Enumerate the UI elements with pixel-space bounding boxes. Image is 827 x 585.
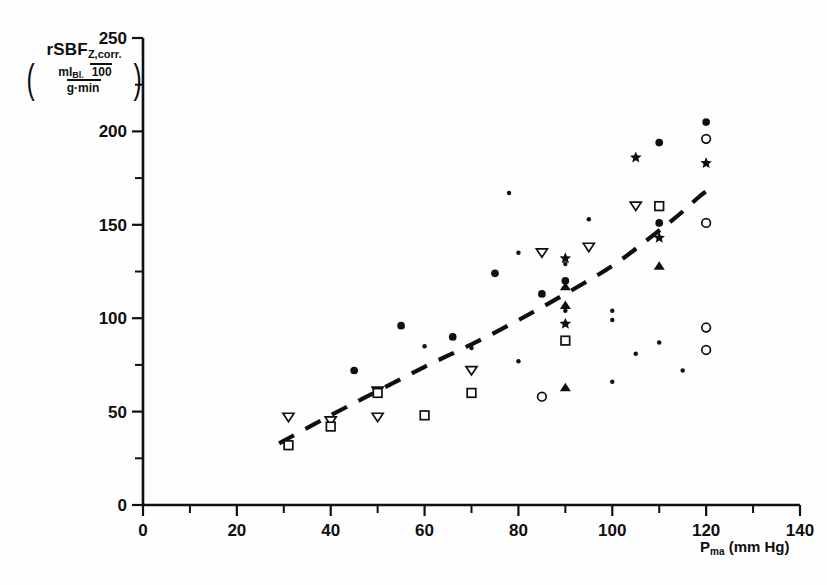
- x-tick-label: 80: [509, 521, 528, 540]
- x-tick-label: 140: [786, 521, 814, 540]
- data-point-open-square[interactable]: [561, 336, 570, 345]
- x-tick-label: 60: [415, 521, 434, 540]
- data-point-filled-circle[interactable]: [610, 308, 614, 312]
- data-point-filled-triangle-up[interactable]: [560, 383, 571, 391]
- data-point-filled-triangle-up[interactable]: [654, 261, 665, 269]
- scatter-plot-canvas: 050100150200250 020406080100120140: [0, 0, 827, 585]
- y-tick-label: 50: [108, 403, 127, 422]
- data-point-open-circle[interactable]: [702, 346, 711, 355]
- data-point-filled-circle[interactable]: [469, 346, 473, 350]
- data-point-open-triangle-down[interactable]: [583, 243, 594, 251]
- y-tick-label: 150: [99, 216, 127, 235]
- data-point-filled-circle[interactable]: [449, 333, 457, 341]
- x-tick-label: 0: [138, 521, 147, 540]
- data-point-open-triangle-down[interactable]: [466, 367, 477, 375]
- data-point-filled-circle[interactable]: [350, 367, 358, 375]
- series-filled-circle-small: [375, 191, 684, 393]
- data-point-open-triangle-down[interactable]: [372, 413, 383, 421]
- series-open-square: [284, 202, 663, 450]
- data-point-filled-circle[interactable]: [538, 290, 546, 298]
- y-tick-label: 200: [99, 122, 127, 141]
- data-point-open-triangle-down[interactable]: [283, 413, 294, 421]
- data-point-filled-circle[interactable]: [634, 351, 638, 355]
- data-point-open-circle[interactable]: [702, 219, 711, 228]
- data-point-star[interactable]: [700, 157, 712, 168]
- data-point-filled-triangle-up[interactable]: [560, 282, 571, 290]
- data-point-open-square[interactable]: [284, 441, 293, 450]
- regression-curve: [279, 186, 715, 444]
- data-point-open-square[interactable]: [467, 389, 476, 398]
- y-tick-label: 0: [118, 496, 127, 515]
- series-filled-circle-large: [350, 118, 710, 374]
- data-point-filled-circle[interactable]: [507, 191, 511, 195]
- y-tick-label: 100: [99, 309, 127, 328]
- series-filled-triangle-up: [560, 261, 665, 391]
- x-tick-label: 40: [321, 521, 340, 540]
- data-point-open-circle[interactable]: [702, 323, 711, 332]
- data-point-filled-circle[interactable]: [655, 139, 663, 147]
- data-point-filled-circle[interactable]: [655, 219, 663, 227]
- series-star: [560, 151, 712, 328]
- x-tick-label: 20: [227, 521, 246, 540]
- data-point-open-circle[interactable]: [702, 135, 711, 144]
- x-axis-ticks: 020406080100120140: [138, 505, 814, 540]
- series-open-triangle-down: [283, 202, 641, 425]
- data-point-filled-circle[interactable]: [397, 322, 405, 330]
- data-point-filled-circle[interactable]: [516, 251, 520, 255]
- data-point-filled-circle[interactable]: [610, 379, 614, 383]
- data-point-open-triangle-down[interactable]: [536, 249, 547, 257]
- data-point-filled-circle[interactable]: [657, 340, 661, 344]
- trend-line-group: [279, 186, 715, 444]
- figure-root: rSBFZ,corr. ( mlBl. 100 g·min ) Pma (mm …: [0, 0, 827, 585]
- data-point-star[interactable]: [560, 318, 572, 329]
- data-point-filled-circle[interactable]: [563, 308, 567, 312]
- data-point-filled-circle[interactable]: [702, 118, 710, 126]
- data-point-open-square[interactable]: [373, 389, 382, 398]
- data-point-filled-circle[interactable]: [422, 344, 426, 348]
- data-point-open-square[interactable]: [420, 411, 429, 420]
- data-point-open-circle[interactable]: [538, 392, 547, 401]
- data-point-open-triangle-down[interactable]: [630, 202, 641, 210]
- data-point-filled-circle[interactable]: [563, 262, 567, 266]
- data-point-filled-circle[interactable]: [516, 359, 520, 363]
- data-point-filled-circle[interactable]: [491, 270, 499, 278]
- data-point-star[interactable]: [560, 252, 572, 263]
- data-point-star[interactable]: [630, 151, 642, 162]
- data-point-filled-triangle-up[interactable]: [560, 301, 571, 309]
- data-point-open-square[interactable]: [326, 422, 335, 431]
- data-point-filled-circle[interactable]: [610, 318, 614, 322]
- axes-group: [143, 38, 800, 505]
- y-tick-label: 250: [99, 29, 127, 48]
- y-axis-ticks: 050100150200250: [99, 29, 143, 515]
- x-tick-label: 100: [598, 521, 626, 540]
- x-tick-label: 120: [692, 521, 720, 540]
- data-point-filled-circle[interactable]: [680, 368, 684, 372]
- data-points-group: [283, 118, 712, 449]
- series-open-circle: [538, 135, 711, 401]
- data-point-open-square[interactable]: [655, 202, 664, 211]
- data-point-filled-circle[interactable]: [587, 217, 591, 221]
